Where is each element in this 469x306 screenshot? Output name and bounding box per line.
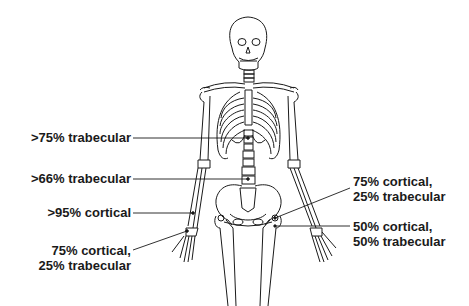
label-thoracic-spine: >75% trabecular [31,130,131,145]
cervical-spine [244,70,254,82]
label-distal-radius: 75% cortical, 25% trabecular [39,243,132,273]
label-line: 50% cortical, [353,219,446,234]
femurs [215,216,281,306]
right-arm [288,92,336,262]
label-line: 25% trabecular [39,258,132,273]
label-femoral-neck: 75% cortical, 25% trabecular [353,174,446,204]
pelvis [216,185,281,227]
label-line: 25% trabecular [353,189,446,204]
label-line: >95% cortical [48,205,131,220]
label-intertrochanteric: 50% cortical, 50% trabecular [353,219,446,249]
label-lumbar-spine: >66% trabecular [31,171,131,186]
shoulder-girdle [200,83,298,92]
leader-lines [133,138,350,250]
leader-distal-radius [133,231,187,250]
label-line: 75% cortical, [353,174,446,189]
label-radius-shaft: >95% cortical [48,205,131,220]
leader-femoral-neck [275,188,350,218]
ribcage [217,90,280,159]
label-line: 75% cortical, [39,243,132,258]
label-line: >75% trabecular [31,130,131,145]
skull [230,17,267,70]
label-line: 50% trabecular [353,234,446,249]
skeleton-diagram: >75% trabecular >66% trabecular >95% cor… [0,0,469,306]
left-arm [172,92,210,262]
label-line: >66% trabecular [31,171,131,186]
